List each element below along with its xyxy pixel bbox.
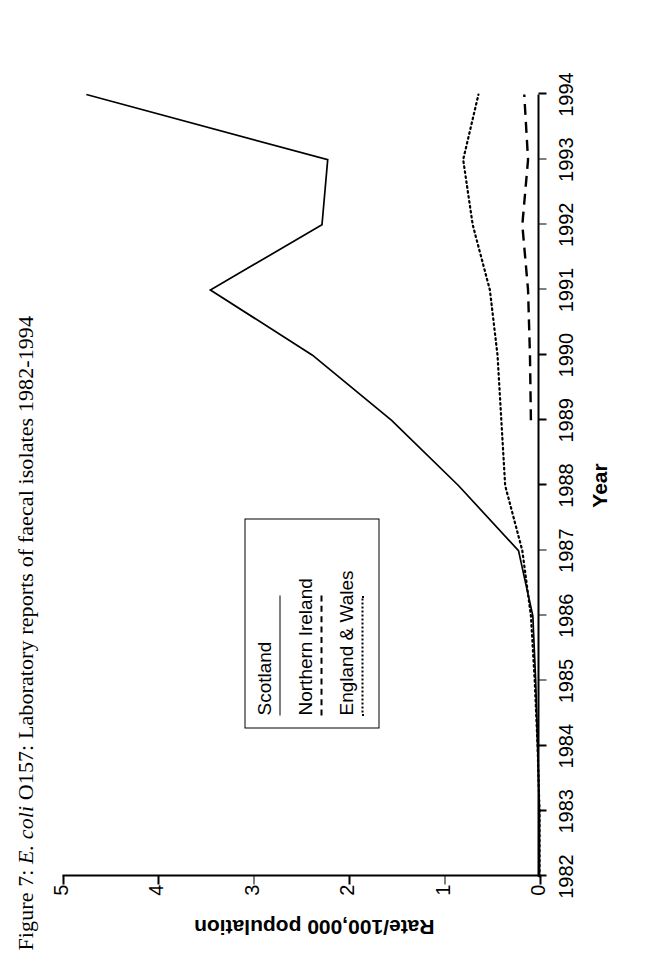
y-tick-label-1: 1 — [431, 884, 454, 908]
plot-area: 1982198319841985198619871988198919901991… — [62, 94, 539, 876]
x-axis-title: Year — [587, 94, 611, 876]
legend-label-northern-ireland: Northern Ireland — [294, 578, 316, 715]
figure-title-species: E. coli — [12, 805, 37, 863]
legend-swatch-dashed-line — [320, 595, 322, 715]
series-line-northern-ireland — [522, 94, 531, 420]
legend-label-scotland: Scotland — [253, 641, 275, 715]
figure-title: Figure 7: E. coli O157: Laboratory repor… — [12, 315, 38, 950]
legend-swatch-solid-line — [279, 595, 280, 715]
y-tick-label-4: 4 — [144, 884, 167, 908]
legend-swatch-dotted-line — [361, 595, 363, 715]
series-line-england-wales — [463, 94, 539, 876]
legend-item-england-wales: England & Wales — [335, 527, 375, 717]
figure-title-prefix: Figure 7: — [12, 863, 37, 950]
figure-title-rest: O157: Laboratory reports of faecal isola… — [12, 315, 37, 805]
legend-label-england-wales: England & Wales — [335, 570, 357, 715]
y-tick-label-3: 3 — [240, 884, 263, 908]
legend-item-scotland: Scotland — [253, 527, 293, 717]
y-axis-title: Rate/100,000 population — [194, 914, 434, 938]
y-tick-label-5: 5 — [49, 884, 72, 908]
series-lines — [62, 94, 539, 876]
legend-item-northern-ireland: Northern Ireland — [294, 527, 334, 717]
y-tick-label-0: 0 — [526, 884, 549, 908]
y-tick-label-2: 2 — [335, 884, 358, 908]
x-tick-label-1994: 1994 — [554, 54, 577, 134]
legend-box: Scotland Northern Ireland England & Wale… — [244, 518, 379, 728]
figure-stage: Figure 7: E. coli O157: Laboratory repor… — [0, 0, 657, 972]
